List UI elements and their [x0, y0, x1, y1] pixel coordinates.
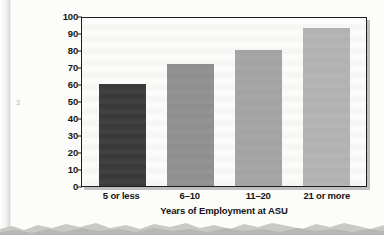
y-tick-label: 10	[68, 165, 78, 175]
torn-page-edge	[0, 213, 384, 235]
chart-page: 3 Percent Familiar with Benefit 10090807…	[0, 0, 384, 235]
bar-slot	[156, 18, 224, 186]
y-tick-label: 30	[68, 131, 78, 141]
bar[interactable]	[235, 50, 282, 186]
x-tick-label: 11–20	[224, 190, 293, 201]
bar[interactable]	[99, 84, 146, 186]
y-tick-label: 50	[68, 97, 78, 107]
bar-slot	[88, 18, 156, 186]
page-left-edge	[0, 0, 11, 235]
y-tick-label: 40	[68, 114, 78, 124]
y-tick-label: 60	[68, 80, 78, 90]
y-tick-label: 100	[63, 12, 78, 22]
y-tick-label: 70	[68, 63, 78, 73]
bar[interactable]	[167, 64, 214, 186]
y-tick-label: 20	[68, 148, 78, 158]
x-tick-label: 6–10	[156, 190, 225, 201]
bar-series	[82, 18, 366, 186]
x-tick-label: 5 or less	[87, 190, 156, 201]
y-axis: Percent Familiar with Benefit 1009080706…	[54, 17, 81, 187]
page-margin-mark: 3	[16, 99, 20, 106]
y-tick-label: 80	[68, 46, 78, 56]
x-axis: 5 or less6–1011–2021 or more	[81, 190, 367, 201]
x-tick-label: 21 or more	[293, 190, 362, 201]
y-tick-label: 90	[68, 29, 78, 39]
bar[interactable]	[303, 28, 350, 186]
bar-slot	[224, 18, 292, 186]
plot-area	[81, 17, 367, 187]
bar-slot	[292, 18, 360, 186]
